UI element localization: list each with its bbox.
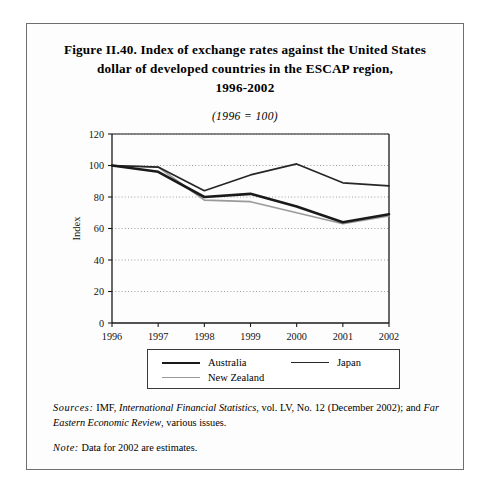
legend-item-new-zealand: New Zealand: [162, 372, 264, 383]
legend-label-australia: Australia: [208, 357, 247, 368]
y-tick-label: 60: [94, 223, 104, 234]
x-tick-label: 2000: [286, 331, 306, 342]
figure-notes: Sources: IMF, International Financial St…: [53, 401, 439, 467]
line-chart-svg: 0204060801001201996199719981999200020012…: [27, 122, 465, 354]
legend-line-swatch-japan: [291, 362, 329, 363]
figure-title-line-2: dollar of developed countries in the ESC…: [27, 59, 463, 78]
legend-item-australia: Australia: [162, 357, 247, 368]
figure-panel: Figure II.40. Index of exchange rates ag…: [26, 23, 464, 470]
note-text: Data for 2002 are estimates.: [81, 442, 197, 453]
x-tick-label: 1999: [240, 331, 260, 342]
x-tick-label: 1997: [148, 331, 168, 342]
x-tick-label: 2002: [379, 331, 399, 342]
estimates-note: Note: Data for 2002 are estimates.: [53, 441, 439, 456]
legend-line-swatch-new-zealand: [162, 377, 200, 378]
legend-line-swatch-australia: [162, 362, 200, 364]
figure-title-line-1: Figure II.40. Index of exchange rates ag…: [27, 40, 463, 59]
x-tick-label: 2001: [333, 331, 353, 342]
legend-label-japan: Japan: [337, 357, 361, 368]
y-tick-label: 0: [99, 318, 104, 329]
y-tick-label: 40: [94, 255, 104, 266]
y-tick-label: 120: [89, 129, 104, 140]
x-tick-label: 1996: [102, 331, 122, 342]
y-tick-label: 80: [94, 192, 104, 203]
sources-note: Sources: IMF, International Financial St…: [53, 401, 439, 430]
chart-legend: Australia Japan New Zealand: [147, 349, 400, 389]
legend-item-japan: Japan: [291, 357, 361, 368]
y-tick-label: 20: [94, 286, 104, 297]
figure-title-block: Figure II.40. Index of exchange rates ag…: [27, 24, 463, 97]
sources-label: Sources:: [53, 402, 93, 413]
series-line-japan: [112, 164, 389, 191]
y-tick-label: 100: [89, 160, 104, 171]
sources-text-3: , various issues.: [161, 417, 226, 428]
sources-text-2: , vol. LV, No. 12 (December 2002); and: [256, 402, 421, 413]
series-line-australia: [112, 166, 389, 223]
chart-plot-area: 0204060801001201996199719981999200020012…: [27, 122, 465, 354]
figure-subtitle: (1996 = 100): [27, 110, 463, 122]
y-axis-title: Index: [71, 216, 82, 241]
sources-italic-1: International Financial Statistics: [119, 402, 256, 413]
note-label: Note:: [53, 442, 79, 453]
figure-title-line-3: 1996-2002: [27, 78, 463, 97]
sources-text-1: IMF,: [96, 402, 116, 413]
x-tick-label: 1998: [194, 331, 214, 342]
legend-label-new-zealand: New Zealand: [208, 372, 264, 383]
